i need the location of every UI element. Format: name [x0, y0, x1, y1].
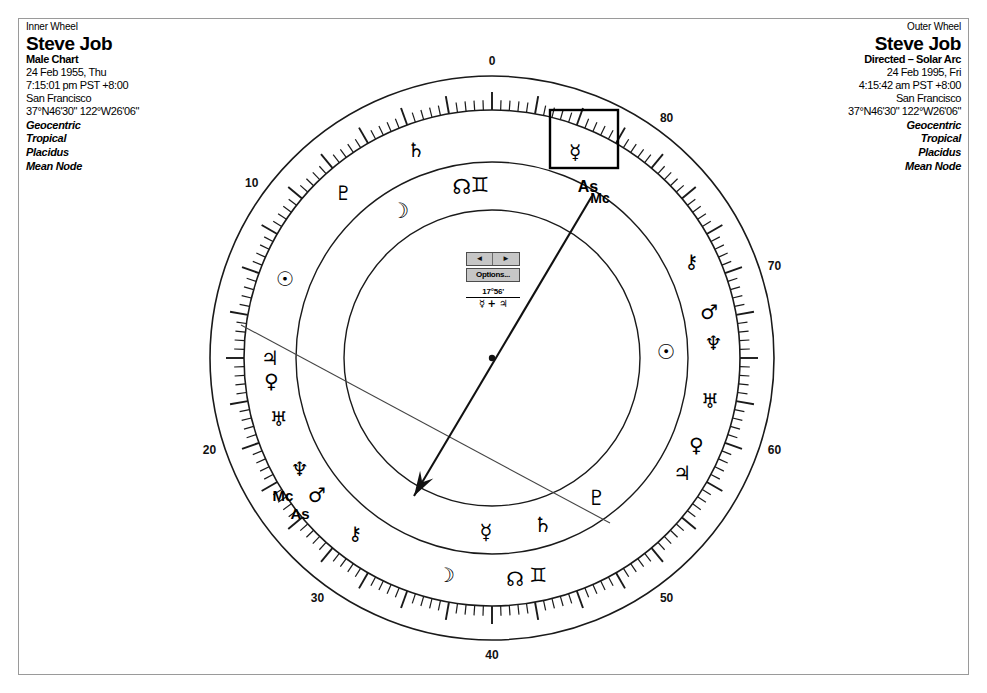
outer-wheel-option-geocentric: Geocentric: [848, 119, 961, 133]
aspect-readout-degrees: 17°56': [466, 288, 520, 298]
inner-wheel-option-geocentric: Geocentric: [26, 119, 139, 133]
outer-wheel-option-tropical: Tropical: [848, 132, 961, 146]
outer-wheel-time: 4:15:42 am PST +8:00: [848, 79, 961, 92]
screenshot-root: Inner Wheel Steve Job Male Chart 24 Feb …: [0, 0, 987, 693]
outer-wheel-place: San Francisco: [848, 92, 961, 105]
inner-wheel-option-tropical: Tropical: [26, 132, 139, 146]
inner-wheel-place: San Francisco: [26, 92, 139, 105]
inner-wheel-date: 24 Feb 1955, Thu: [26, 66, 139, 79]
outer-wheel-heading: Outer Wheel: [848, 22, 961, 32]
outer-wheel-chart-type: Directed – Solar Arc: [848, 53, 961, 66]
step-button-row[interactable]: ◄ ►: [466, 252, 520, 266]
inner-wheel-info-panel: Inner Wheel Steve Job Male Chart 24 Feb …: [26, 22, 139, 174]
outer-wheel-name: Steve Job: [848, 34, 961, 53]
inner-wheel-time: 7:15:01 pm PST +8:00: [26, 79, 139, 92]
page-frame: [18, 18, 969, 675]
outer-wheel-info-panel: Outer Wheel Steve Job Directed – Solar A…: [848, 22, 961, 174]
outer-wheel-option-placidus: Placidus: [848, 146, 961, 160]
previous-arrow-button[interactable]: ◄: [467, 253, 493, 265]
inner-wheel-option-mean-node: Mean Node: [26, 160, 139, 174]
aspect-readout-symbols: ☿ + ♃: [466, 298, 520, 310]
outer-wheel-date: 24 Feb 1995, Fri: [848, 66, 961, 79]
outer-wheel-option-mean-node: Mean Node: [848, 160, 961, 174]
next-arrow-button[interactable]: ►: [493, 253, 519, 265]
aspect-readout: 17°56' ☿ + ♃: [466, 288, 520, 309]
inner-wheel-option-placidus: Placidus: [26, 146, 139, 160]
inner-wheel-name: Steve Job: [26, 34, 139, 53]
inner-wheel-coordinates: 37°N46'30" 122°W26'06": [26, 105, 139, 118]
inner-wheel-heading: Inner Wheel: [26, 22, 139, 32]
outer-wheel-coordinates: 37°N46'30" 122°W26'06": [848, 105, 961, 118]
options-button[interactable]: Options...: [466, 268, 520, 282]
inner-wheel-chart-type: Male Chart: [26, 53, 139, 66]
wheel-control-widget[interactable]: ◄ ► Options... 17°56' ☿ + ♃: [466, 252, 520, 309]
